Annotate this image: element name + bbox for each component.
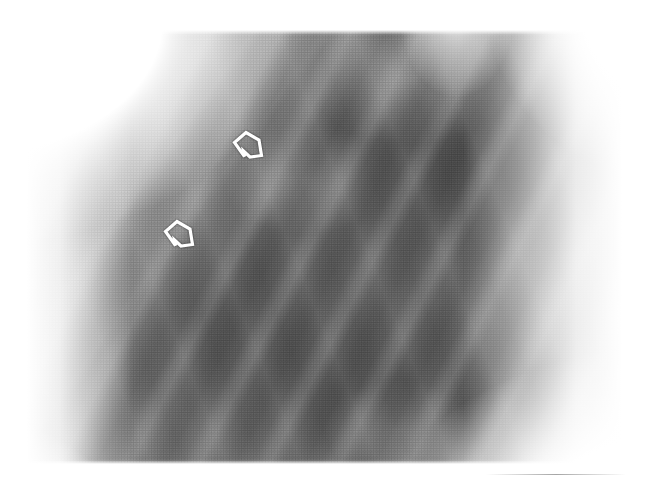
arrow-marker-upper — [231, 128, 265, 162]
arrow-icon — [162, 217, 196, 251]
arrow-icon — [231, 128, 265, 162]
arrow-marker-lower — [162, 217, 196, 251]
paper-margin-mask — [0, 0, 662, 500]
radiograph-film — [0, 0, 662, 500]
radiograph-viewer — [0, 0, 662, 500]
scan-hairline-artifact — [486, 474, 626, 475]
